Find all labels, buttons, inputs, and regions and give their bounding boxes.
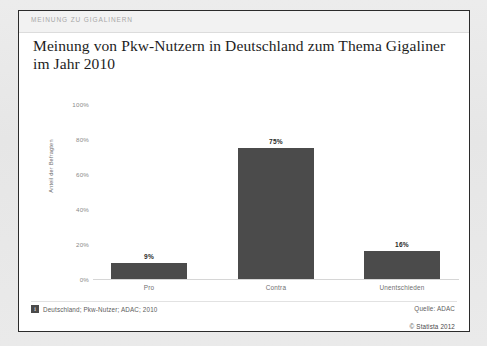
bar-group-unentschieden[interactable]: 16% Unentschieden bbox=[364, 241, 440, 279]
bar-group-pro[interactable]: 9% Pro bbox=[111, 253, 187, 279]
footnote: i Deutschland; Pkw-Nutzer; ADAC; 2010 bbox=[31, 305, 157, 313]
bar-category-contra: Contra bbox=[238, 279, 314, 291]
chart-kicker: MEINUNG ZU GIGALINERN bbox=[31, 16, 133, 23]
bar-group-contra[interactable]: 75% Contra bbox=[238, 138, 314, 279]
statista-chart-card: MEINUNG ZU GIGALINERN Meinung von Pkw-Nu… bbox=[18, 10, 470, 332]
footnote-text: Deutschland; Pkw-Nutzer; ADAC; 2010 bbox=[43, 306, 157, 313]
chart-title: Meinung von Pkw-Nutzern in Deutschland z… bbox=[33, 37, 453, 73]
source-text: Quelle: ADAC bbox=[414, 305, 455, 312]
plot-area: Anteil der Befragten 100% 80% 60% 40% 20… bbox=[19, 83, 470, 283]
info-icon[interactable]: i bbox=[31, 305, 39, 313]
bar-category-pro: Pro bbox=[111, 279, 187, 291]
bar-unentschieden[interactable] bbox=[364, 251, 440, 279]
copyright-text: © Statista 2012 bbox=[410, 323, 455, 330]
bar-category-unentschieden: Unentschieden bbox=[364, 279, 440, 291]
bar-value-unentschieden: 16% bbox=[364, 241, 440, 248]
bar-contra[interactable] bbox=[238, 148, 314, 279]
bar-pro[interactable] bbox=[111, 263, 187, 279]
footer-divider bbox=[31, 301, 457, 302]
bar-value-pro: 9% bbox=[111, 253, 187, 260]
bar-series: 9% Pro 75% Contra 16% Unentschieden bbox=[19, 83, 470, 283]
bar-value-contra: 75% bbox=[238, 138, 314, 145]
